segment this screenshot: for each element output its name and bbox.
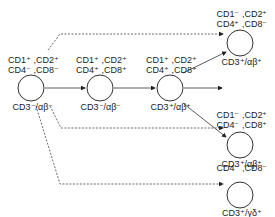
node-6-markers-line2: CD4⁻ ,CD8⁻ bbox=[216, 163, 268, 173]
node-1-markers-line2: CD4⁻ ,CD8⁻ bbox=[8, 65, 58, 75]
lineage-diagram: CD1⁺ ,CD2⁺ CD4⁻ ,CD8⁻ CD3⁻/αβ⁻ CD1⁺ ,CD2… bbox=[0, 0, 275, 217]
dashed-arrow-n1-n4 bbox=[48, 34, 223, 50]
node-4-receptor: CD3⁺/αβ⁺ bbox=[216, 57, 268, 67]
node-4-markers-line1: CD1⁻ ,CD2⁺ bbox=[216, 9, 268, 19]
node-3-receptor: CD3⁺/αβ⁺ bbox=[146, 102, 196, 112]
node-2-markers: CD1⁺ ,CD2⁺ CD4⁺ ,CD8⁺ bbox=[76, 55, 126, 75]
node-1-markers-line1: CD1⁺ ,CD2⁺ bbox=[8, 55, 58, 65]
cell-node-4 bbox=[227, 30, 253, 56]
node-6-markers-top: CD1⁻ ,CD2⁺ CD4⁻ ,CD8⁻ bbox=[216, 163, 268, 173]
cell-node-2 bbox=[87, 75, 113, 101]
node-4-markers: CD1⁻ ,CD2⁺ CD4⁺ ,CD8⁻ bbox=[216, 9, 268, 29]
node-5-markers-line1: CD1⁻ ,CD2⁺ bbox=[216, 110, 268, 120]
node-1-receptor: CD3⁻/αβ⁻ bbox=[8, 102, 58, 112]
cell-node-1 bbox=[18, 75, 44, 101]
node-3-markers-line2: CD4⁺ ,CD8⁺ bbox=[146, 65, 196, 75]
node-1-markers: CD1⁺ ,CD2⁺ CD4⁻ ,CD8⁻ bbox=[8, 55, 58, 75]
cell-node-5 bbox=[227, 132, 253, 158]
cell-node-6 bbox=[227, 182, 253, 208]
node-2-markers-line2: CD4⁺ ,CD8⁺ bbox=[76, 65, 126, 75]
dashed-arrow-n1-n6 bbox=[36, 106, 223, 184]
node-2-markers-line1: CD1⁺ ,CD2⁺ bbox=[76, 55, 126, 65]
node-5-markers: CD1⁻ ,CD2⁺ CD4⁻ ,CD8⁺ bbox=[216, 110, 268, 130]
node-2-receptor: CD3⁻/αβ⁻ bbox=[76, 102, 126, 112]
node-4-markers-line2: CD4⁺ ,CD8⁻ bbox=[216, 19, 268, 29]
node-3-markers-line1: CD1⁺ ,CD2⁺ bbox=[146, 55, 196, 65]
cell-node-3 bbox=[157, 75, 183, 101]
node-5-markers-line2: CD4⁻ ,CD8⁺ bbox=[216, 120, 268, 130]
node-6-receptor: CD3⁺/γδ⁺ bbox=[216, 208, 268, 217]
node-3-markers: CD1⁺ ,CD2⁺ CD4⁺ ,CD8⁺ bbox=[146, 55, 196, 75]
